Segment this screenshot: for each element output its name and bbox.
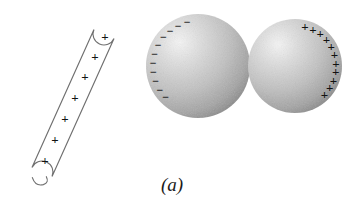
sphere-minus-sign: − bbox=[175, 19, 182, 33]
rod-plus-sign: + bbox=[41, 153, 48, 168]
rod-plus-sign: + bbox=[61, 111, 68, 126]
rod-plus-sign: + bbox=[51, 132, 58, 147]
sphere-minus-sign: − bbox=[184, 15, 191, 29]
sphere-left-group: −−−−−−−−−−− bbox=[146, 14, 250, 118]
rod-plus-sign: + bbox=[91, 49, 98, 64]
rod-plus-sign: + bbox=[71, 90, 78, 105]
sphere-minus-sign: − bbox=[162, 90, 169, 104]
rod-plus-sign: + bbox=[101, 29, 108, 44]
rod-plus-sign: + bbox=[81, 69, 88, 84]
sphere-plus-sign: + bbox=[321, 87, 328, 102]
physics-figure-electrostatic-induction: +++++++ −−−−−−−−−−− +++++++++++ (a) bbox=[0, 0, 357, 211]
sphere-plus-sign: + bbox=[301, 19, 308, 34]
rod-hook-icon bbox=[32, 177, 47, 185]
sphere-right-group: +++++++++++ bbox=[248, 19, 342, 113]
figure-canvas: +++++++ −−−−−−−−−−− +++++++++++ (a) bbox=[0, 0, 357, 211]
charged-rod-group: +++++++ bbox=[32, 29, 114, 186]
sphere-minus-sign: − bbox=[167, 24, 174, 38]
figure-caption: (a) bbox=[161, 174, 183, 196]
